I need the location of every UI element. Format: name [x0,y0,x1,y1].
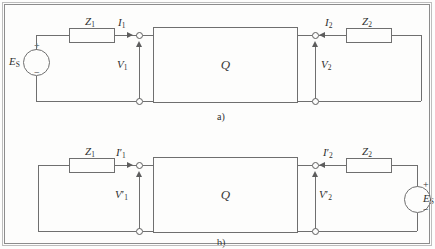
wire-a-z1-node [115,35,137,36]
current-i1-a-arrowhead [127,32,133,38]
page-frame: Q + − ES Z1 I1 [4,4,430,244]
wire-b-node-to-q-bottom [143,231,153,232]
current-i2-a-label: I2 [325,17,332,29]
wire-b-q-to-node-bottom-right [298,231,312,232]
wire-a-q-to-node-bottom-right [298,101,312,102]
impedance-z1-b [69,158,115,173]
terminal-a-left-top [136,32,143,39]
network-label-b: Q [221,187,230,203]
network-box-a: Q [153,27,298,103]
source-b-plus: + [423,180,429,190]
wire-b-right-top-vertical [417,165,418,187]
caption-b: b) [217,237,225,248]
wire-a-right-vertical [421,35,422,101]
wire-a-z2-to-right [392,35,421,36]
voltage-v2-b-line [315,175,316,229]
terminal-b-left-top [136,162,143,169]
source-b-minus: − [423,205,429,215]
impedance-z1-a-label: Z1 [85,16,95,28]
voltage-v2-a-label: V2 [321,59,331,71]
wire-a-bottom-right [319,101,421,102]
wire-b-bottom-right [319,231,417,232]
wire-a-q-to-node-top-right [298,35,312,36]
impedance-z2-b [346,158,392,173]
current-i2-b-label: I′2 [323,147,333,159]
terminal-a-left-bottom [136,98,143,105]
impedance-z2-a-label: Z2 [362,16,372,28]
wire-b-bottom-left [38,231,136,232]
voltage-v2-b-label: V′2 [319,189,332,201]
current-i1-b-arrowhead [127,162,133,168]
network-box-b: Q [153,157,298,233]
wire-a-node-to-q-bottom [143,101,153,102]
terminal-b-right-top [312,162,319,169]
wire-b-z2-to-right [392,165,417,166]
impedance-z1-a [69,28,115,43]
wire-b-left-vertical [38,165,39,231]
voltage-v1-b-arrowhead [136,171,142,177]
current-i1-b-label: I′1 [116,147,126,159]
voltage-v1-a-label: V1 [117,59,127,71]
wire-b-z1-node [115,165,137,166]
voltage-v1-a-arrowhead [136,41,142,47]
terminal-b-right-bottom [312,228,319,235]
caption-a: a) [217,111,225,122]
wire-b-node-to-q-top [143,165,153,166]
terminal-b-left-bottom [136,228,143,235]
voltage-v1-b-label: V′1 [115,189,128,201]
wire-b-q-to-node-top-right [298,165,312,166]
wire-b-top-left [38,165,69,166]
wire-a-node-to-q-top [143,35,153,36]
network-label-a: Q [221,57,230,73]
current-i2-b-arrowhead [319,162,325,168]
current-i2-a-arrowhead [319,32,325,38]
impedance-z2-b-label: Z2 [362,146,372,158]
voltage-v2-b-arrowhead [312,171,318,177]
wire-b-right-bottom-vertical [417,213,418,231]
voltage-v1-a-line [139,45,140,99]
figure-canvas: Q + − ES Z1 I1 [0,0,435,249]
current-i1-a-label: I1 [118,17,125,29]
voltage-v1-b-line [139,175,140,229]
wire-a-source-bottom [36,76,37,101]
source-b-label: ES [423,193,434,205]
voltage-v2-a-line [315,45,316,99]
wire-a-top-left [36,35,69,36]
terminal-a-right-top [312,32,319,39]
wire-a-source-top [36,35,37,50]
impedance-z1-b-label: Z1 [85,146,95,158]
terminal-a-right-bottom [312,98,319,105]
impedance-z2-a [346,28,392,43]
source-a-label: ES [9,56,20,68]
wire-a-bottom-left [36,101,136,102]
voltage-v2-a-arrowhead [312,41,318,47]
